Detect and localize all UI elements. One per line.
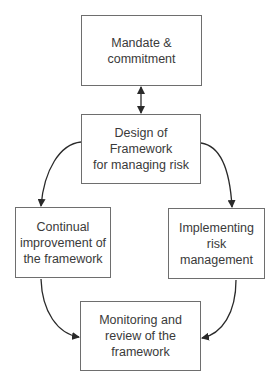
node-mandate-commitment: Mandate & commitment bbox=[81, 15, 202, 86]
node-label: Design of Framework for managing risk bbox=[85, 125, 197, 173]
node-monitoring-review: Monitoring and review of the framework bbox=[80, 301, 201, 371]
risk-management-framework-diagram: Mandate & commitment Design of Framework… bbox=[0, 0, 278, 391]
node-implementing-risk-management: Implementing risk management bbox=[168, 208, 265, 279]
arrow-implementing-monitoring bbox=[202, 280, 236, 338]
node-label: Monitoring and review of the framework bbox=[99, 312, 182, 360]
arrow-design-implementing bbox=[201, 143, 232, 207]
node-continual-improvement: Continual improvement of the framework bbox=[15, 207, 111, 278]
arrow-design-improvement bbox=[41, 142, 81, 206]
node-label: Implementing risk management bbox=[179, 220, 254, 268]
node-label: Mandate & commitment bbox=[107, 35, 175, 67]
arrow-improvement-monitoring bbox=[41, 279, 79, 337]
node-design-framework: Design of Framework for managing risk bbox=[81, 114, 201, 184]
node-label: Continual improvement of the framework bbox=[20, 219, 106, 267]
